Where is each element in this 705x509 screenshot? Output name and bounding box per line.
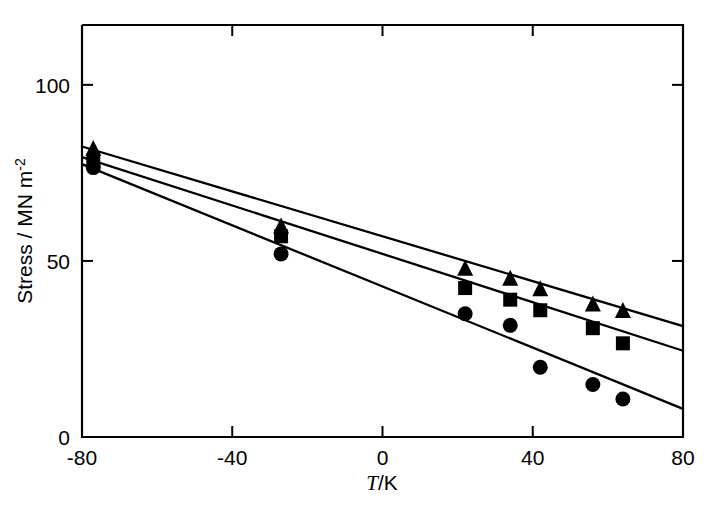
- marker-square: [533, 303, 547, 317]
- x-axis-tick-labels: -80-4004080: [67, 446, 695, 469]
- marker-circle: [533, 360, 548, 375]
- marker-square: [503, 293, 517, 307]
- regression-lines: [82, 146, 683, 408]
- data-point-markers: [85, 140, 631, 406]
- marker-circle: [585, 377, 600, 392]
- y-axis-ticks-right: [672, 85, 683, 437]
- y-tick-label: 50: [47, 250, 70, 273]
- marker-circle: [503, 318, 518, 333]
- x-tick-label: 80: [671, 446, 694, 469]
- marker-square: [274, 229, 288, 243]
- svg-text:T/K: T/K: [366, 471, 398, 495]
- stress-temperature-chart: -80-4004080 050100 T/K Stress / MN m-2: [0, 0, 705, 509]
- fit-line-circle: [82, 164, 683, 409]
- x-tick-label: 0: [377, 446, 389, 469]
- x-axis-ticks-top: [82, 25, 683, 36]
- y-tick-label: 0: [58, 426, 70, 449]
- y-axis-title: Stress / MN m-2: [12, 158, 36, 304]
- x-tick-label: 40: [521, 446, 544, 469]
- marker-circle: [615, 391, 630, 406]
- x-tick-label: -80: [67, 446, 97, 469]
- marker-circle: [274, 246, 289, 261]
- y-axis-ticks: [82, 85, 93, 437]
- x-axis-ticks: [82, 426, 683, 437]
- marker-square: [586, 321, 600, 335]
- marker-circle: [86, 160, 101, 175]
- x-tick-label: -40: [217, 446, 247, 469]
- x-axis-title: T/K: [366, 471, 398, 495]
- marker-circle: [458, 306, 473, 321]
- marker-square: [616, 336, 630, 350]
- y-axis-tick-labels: 050100: [35, 74, 70, 449]
- series-square: [86, 154, 630, 351]
- series-circle: [86, 160, 631, 406]
- svg-text:Stress / MN m-2: Stress / MN m-2: [12, 158, 36, 304]
- plot-frame: [82, 25, 683, 437]
- marker-square: [458, 281, 472, 295]
- y-tick-label: 100: [35, 74, 70, 97]
- figure-container: -80-4004080 050100 T/K Stress / MN m-2: [0, 0, 705, 509]
